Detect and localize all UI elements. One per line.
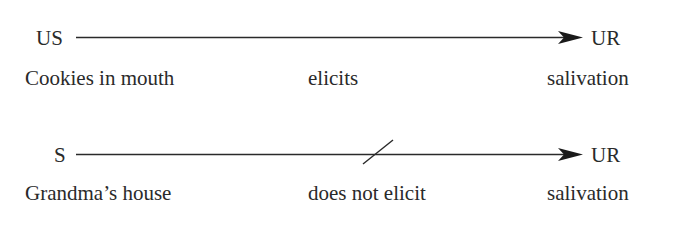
response-ur-2: UR: [591, 145, 620, 166]
response-label-1: salivation: [547, 68, 629, 89]
blocked-slash-icon: [363, 140, 393, 164]
stimulus-s: S: [54, 145, 66, 166]
arrow-us-to-ur: [76, 31, 583, 44]
relation-label-2: does not elicit: [308, 183, 426, 204]
stimulus-label-2: Grandma’s house: [25, 183, 171, 204]
stimulus-us: US: [36, 28, 63, 49]
response-label-2: salivation: [547, 183, 629, 204]
arrow-s-to-ur: [76, 140, 583, 164]
relation-label-1: elicits: [308, 68, 358, 89]
response-ur-1: UR: [591, 28, 620, 49]
stimulus-label-1: Cookies in mouth: [25, 68, 174, 89]
